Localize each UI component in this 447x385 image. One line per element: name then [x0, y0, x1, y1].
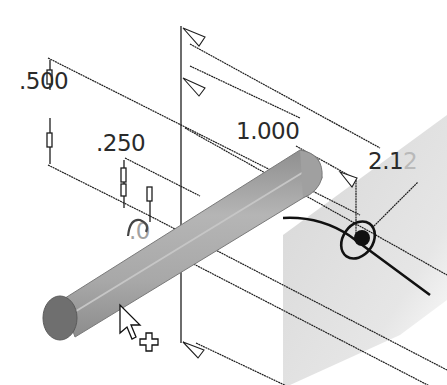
arrow-pointer-icon — [120, 305, 140, 339]
plus-move-icon — [140, 333, 158, 351]
cad-viewport[interactable] — [0, 0, 447, 385]
dimension-label-2125[interactable]: 2.12 — [368, 150, 417, 173]
dimension-label-250[interactable]: .250 — [96, 132, 145, 155]
dimension-label-hidden[interactable]: .0 — [129, 220, 150, 243]
rod-body[interactable] — [43, 150, 322, 340]
rod-end-face[interactable] — [43, 296, 77, 340]
dimension-label-500[interactable]: .500 — [19, 70, 68, 93]
dimension-label-1000[interactable]: 1.000 — [236, 120, 299, 143]
dimension-label-2125-visible: 2.1 — [368, 148, 403, 174]
dimension-label-2125-faded: 2 — [403, 148, 417, 174]
